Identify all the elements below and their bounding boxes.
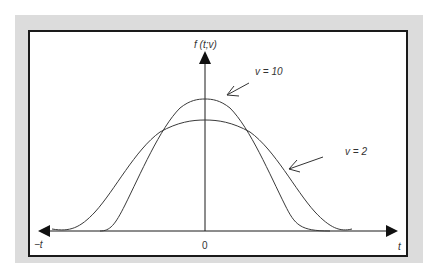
- annotation-v10: v = 10: [255, 66, 283, 77]
- x-axis-left-arrow-icon: [38, 225, 50, 237]
- arrow-v10-icon: [227, 83, 249, 96]
- x-tick-zero: 0: [202, 240, 208, 251]
- annotation-v2: v = 2: [345, 146, 367, 157]
- x-axis-right-arrow-icon: [386, 225, 398, 237]
- y-axis-up-arrow-icon: [199, 51, 211, 64]
- curve-v10: [100, 99, 330, 231]
- arrow-v2-icon: [289, 157, 323, 172]
- plot-area: [0, 0, 434, 279]
- x-tick-neg-t: −t: [34, 239, 43, 250]
- curve-v2: [52, 120, 352, 230]
- x-axis-label-t: t: [398, 241, 401, 252]
- y-axis-label: f (t;v): [194, 39, 217, 50]
